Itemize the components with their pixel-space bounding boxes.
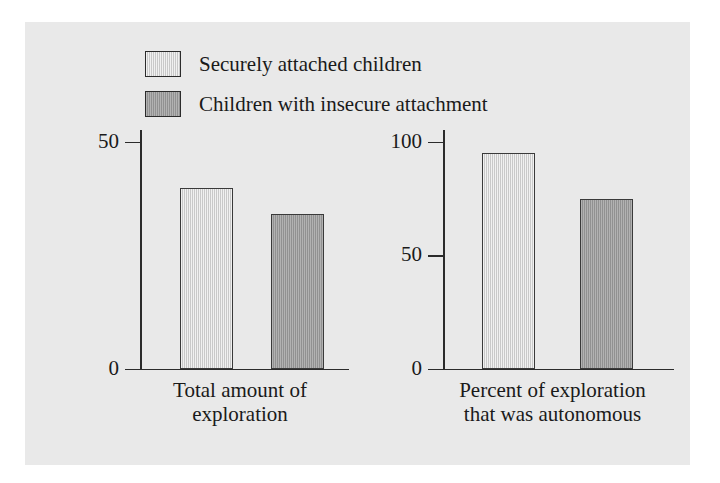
x-axis-left <box>140 369 349 371</box>
bar-left-insecure <box>271 214 324 369</box>
y-tick-right-100: 100 <box>428 142 444 144</box>
y-tick-label-right-0: 0 <box>412 356 423 381</box>
x-axis-label-left-line2: exploration <box>125 402 355 426</box>
legend-item-insecure: Children with insecure attachment <box>145 84 605 124</box>
x-axis-label-left-line1: Total amount of <box>125 378 355 402</box>
y-tick-label-left-50: 50 <box>98 129 119 154</box>
plot-area-left: 0 50 <box>55 130 355 370</box>
bar-left-secure <box>180 188 233 369</box>
y-tick-left-0: 0 <box>125 369 141 371</box>
legend-label-insecure: Children with insecure attachment <box>199 92 488 117</box>
plot-area-right: 0 50 100 <box>365 130 680 370</box>
x-axis-label-right: Percent of exploration that was autonomo… <box>365 378 680 426</box>
x-axis-label-right-line1: Percent of exploration <box>425 378 680 402</box>
bar-right-insecure <box>580 199 633 369</box>
bar-right-secure <box>482 153 535 369</box>
legend-label-secure: Securely attached children <box>199 52 422 77</box>
x-axis-label-left: Total amount of exploration <box>55 378 355 426</box>
y-axis-left <box>140 130 142 370</box>
y-axis-right <box>443 130 445 370</box>
chart-panel-right: 0 50 100 Percent of exploration that was… <box>365 130 680 426</box>
legend-swatch-secure <box>145 51 181 77</box>
y-tick-label-right-50: 50 <box>401 242 422 267</box>
y-tick-label-left-0: 0 <box>109 356 120 381</box>
chart-legend: Securely attached children Children with… <box>145 44 605 124</box>
y-tick-right-50: 50 <box>428 255 444 257</box>
x-axis-label-right-line2: that was autonomous <box>425 402 680 426</box>
y-tick-left-50: 50 <box>125 142 141 144</box>
legend-item-secure: Securely attached children <box>145 44 605 84</box>
chart-figure: Securely attached children Children with… <box>25 22 690 465</box>
legend-swatch-insecure <box>145 91 181 117</box>
y-tick-label-right-100: 100 <box>391 129 423 154</box>
x-axis-right <box>443 369 674 371</box>
y-tick-right-0: 0 <box>428 369 444 371</box>
chart-panel-left: 0 50 Total amount of exploration <box>55 130 355 426</box>
